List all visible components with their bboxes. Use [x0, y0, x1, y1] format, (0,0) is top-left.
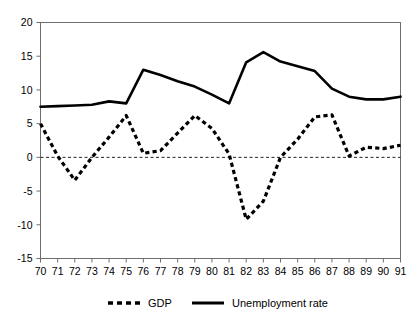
legend-label-gdp: GDP [148, 297, 172, 309]
x-axis-tick-label: 84 [275, 265, 287, 277]
y-axis-tick-label: 20 [21, 16, 33, 28]
legend-label-unemployment-rate: Unemployment rate [232, 297, 328, 309]
x-axis-tick-label: 74 [103, 265, 115, 277]
x-axis-tick-label: 77 [155, 265, 167, 277]
y-axis-tick-label: 15 [21, 50, 33, 62]
x-axis-tick-label: 72 [69, 265, 81, 277]
x-axis-tick-label: 82 [240, 265, 252, 277]
x-axis-tick-label: 70 [35, 265, 47, 277]
y-axis-tick-label: 0 [27, 151, 33, 163]
x-axis-tick-label: 86 [309, 265, 321, 277]
x-axis-tick-label: 79 [189, 265, 201, 277]
series-line-unemployment-rate [41, 52, 401, 107]
y-axis-tick-label: 5 [27, 117, 33, 129]
y-axis-tick-label: 10 [21, 84, 33, 96]
x-axis-tick-label: 91 [395, 265, 407, 277]
y-axis-tick-label: -15 [17, 252, 32, 264]
line-chart: -15-10-505101520707172737475767778798081… [0, 0, 416, 319]
x-axis-tick-label: 78 [172, 265, 184, 277]
x-axis-tick-label: 87 [326, 265, 338, 277]
x-axis-tick-label: 80 [206, 265, 218, 277]
x-axis-tick-label: 73 [86, 265, 98, 277]
plot-area-border [41, 23, 401, 259]
x-axis-tick-label: 71 [52, 265, 64, 277]
x-axis-tick-label: 83 [258, 265, 270, 277]
x-axis-tick-label: 89 [360, 265, 372, 277]
x-axis-tick-label: 85 [292, 265, 304, 277]
y-axis-tick-label: -5 [23, 185, 32, 197]
series-line-gdp [41, 115, 401, 220]
x-axis-tick-label: 81 [223, 265, 235, 277]
x-axis-tick-label: 75 [120, 265, 132, 277]
y-axis-tick-label: -10 [17, 219, 32, 231]
x-axis-tick-label: 76 [138, 265, 150, 277]
x-axis-tick-label: 88 [343, 265, 355, 277]
x-axis-tick-label: 90 [378, 265, 390, 277]
chart-figure: -15-10-505101520707172737475767778798081… [0, 0, 416, 319]
